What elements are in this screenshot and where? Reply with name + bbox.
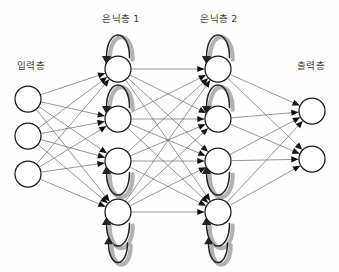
- edge-arrowhead: [97, 120, 105, 126]
- connection-edge: [39, 77, 107, 128]
- neuron-h1_1[interactable]: [105, 56, 131, 82]
- connection-edge: [230, 124, 299, 153]
- input-layer-label: 입력층: [17, 60, 45, 71]
- hidden-layer-1-label: 은닉층 1: [102, 13, 139, 24]
- neuron-h1_4[interactable]: [105, 199, 131, 225]
- connection-edge: [231, 112, 298, 118]
- connection-edge: [38, 145, 107, 204]
- neuron-h2_4[interactable]: [205, 199, 231, 225]
- edge-arrowhead: [291, 156, 298, 162]
- self-loop-tail: [104, 237, 131, 265]
- edge-arrowhead: [197, 116, 204, 122]
- neuron-h1_2[interactable]: [105, 106, 131, 132]
- connection-edge: [41, 163, 104, 172]
- neuron-nodes: [15, 56, 325, 225]
- edge-arrowhead: [291, 110, 298, 116]
- connection-edge: [41, 102, 105, 116]
- connection-edge: [41, 73, 105, 94]
- neuron-h2_2[interactable]: [205, 106, 231, 132]
- edge-arrowhead: [292, 166, 300, 172]
- hidden-layer-2-label: 은닉층 2: [200, 13, 237, 24]
- edge-arrowhead: [97, 111, 105, 117]
- edge-arrowhead: [197, 209, 204, 215]
- neuron-h1_3[interactable]: [105, 148, 131, 174]
- neuron-i3[interactable]: [15, 161, 41, 187]
- edge-arrowhead: [97, 152, 105, 158]
- neuron-o2[interactable]: [299, 146, 325, 172]
- connection-edge: [230, 166, 300, 206]
- neuron-h2_3[interactable]: [205, 148, 231, 174]
- edge-arrowhead: [197, 66, 204, 72]
- edge-arrowhead: [197, 158, 204, 164]
- connection-edge: [230, 117, 300, 154]
- edge-arrowhead: [97, 73, 105, 79]
- self-loop-tail: [204, 237, 231, 265]
- neuron-i2[interactable]: [15, 123, 41, 149]
- edge-arrowhead: [292, 117, 300, 123]
- neuron-o1[interactable]: [299, 98, 325, 124]
- connection-edge: [230, 75, 299, 106]
- edge-arrowhead: [97, 161, 105, 167]
- neural-network-diagram: 입력층 은닉층 1 은닉층 2 출력층: [0, 0, 339, 272]
- edge-arrowhead: [99, 147, 107, 154]
- network-canvas: 입력층 은닉층 1 은닉층 2 출력층: [0, 0, 339, 272]
- connection-edge: [231, 159, 298, 160]
- neuron-h2_1[interactable]: [205, 56, 231, 82]
- output-layer-label: 출력층: [297, 60, 325, 71]
- neuron-i1[interactable]: [15, 86, 41, 112]
- connection-edges: [36, 69, 302, 212]
- edge-arrowhead: [99, 126, 107, 132]
